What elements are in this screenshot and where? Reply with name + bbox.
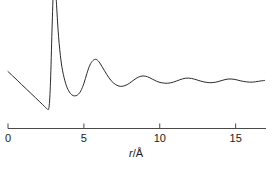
plot-area [0, 0, 276, 170]
data-series-line [8, 0, 264, 110]
x-axis-unit: Å [136, 147, 143, 159]
x-axis-tick-label: 15 [230, 133, 242, 144]
x-axis-tick-label: 5 [81, 133, 87, 144]
x-axis-ticks [8, 124, 236, 129]
chart-figure: 051015 r/Å [0, 0, 276, 170]
x-axis-title: r/Å [129, 148, 143, 159]
x-axis-tick-label: 0 [5, 133, 11, 144]
x-axis-tick-label: 10 [154, 133, 166, 144]
